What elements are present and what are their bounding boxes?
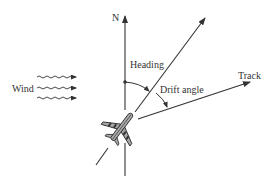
wind-arrows xyxy=(37,76,76,99)
heading-label: Heading xyxy=(130,59,164,70)
track-label: Track xyxy=(238,70,261,81)
drift-angle-label: Drift angle xyxy=(160,84,204,95)
drift-angle-diagram: N Heading Drift angle Track Wind xyxy=(0,0,275,191)
north-label: N xyxy=(112,12,119,23)
aircraft-icon xyxy=(97,103,146,152)
wind-label: Wind xyxy=(12,83,34,94)
